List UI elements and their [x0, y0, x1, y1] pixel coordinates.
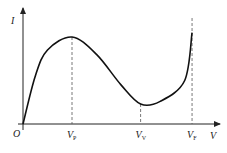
- y-axis-label: I: [10, 15, 15, 26]
- peak-voltage-label: VP: [67, 129, 77, 141]
- forward-voltage-label: VF: [187, 129, 197, 141]
- peak-voltage-label-sub: P: [73, 135, 77, 141]
- origin-label: O: [13, 128, 20, 139]
- tunnel-diode-diagram: I V O VP VV VF: [0, 0, 227, 153]
- x-axis-label: V: [210, 130, 218, 141]
- forward-voltage-label-sub: F: [193, 135, 197, 141]
- valley-voltage-label: VV: [136, 129, 147, 141]
- iv-curve: [23, 33, 192, 124]
- valley-voltage-label-sub: V: [142, 135, 147, 141]
